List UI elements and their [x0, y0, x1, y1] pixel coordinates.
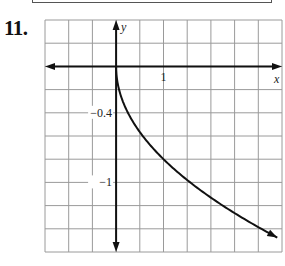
y-axis-label: y: [120, 20, 127, 34]
curve-end-arrow-icon: [267, 230, 277, 238]
y-tick-label: −0.4: [90, 106, 112, 120]
grid-lines: [45, 20, 282, 252]
x-axis-left-arrow-icon: [45, 63, 55, 70]
graph: yx1−0.4−1: [0, 0, 285, 266]
y-axis-down-arrow-icon: [113, 242, 120, 252]
x-axis-label: x: [273, 72, 280, 86]
x-axis-right-arrow-icon: [272, 63, 282, 70]
y-tick-label: −1: [99, 175, 112, 189]
x-tick-label: 1: [161, 70, 167, 84]
y-axis-up-arrow-icon: [113, 20, 120, 30]
